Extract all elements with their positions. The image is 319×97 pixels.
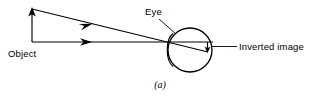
ray-lower — [32, 38, 213, 46]
inverted-image-label: Inverted image — [239, 41, 304, 52]
figure-optics-eye-ray-diagram: Object Eye Inverted image (a) — [0, 0, 319, 97]
ray-upper-arrow-head-icon — [79, 24, 93, 31]
object-arrow — [28, 7, 36, 42]
eye-label: Eye — [145, 6, 162, 17]
eye-label-leader-line — [159, 19, 176, 34]
figure-caption: (a) — [154, 79, 166, 91]
object-label: Object — [8, 48, 37, 59]
ray-diagram-canvas: Object Eye Inverted image (a) — [0, 0, 319, 97]
eyeball-circle — [168, 28, 212, 72]
ray-upper-line — [32, 9, 208, 52]
ray-upper — [32, 9, 208, 52]
